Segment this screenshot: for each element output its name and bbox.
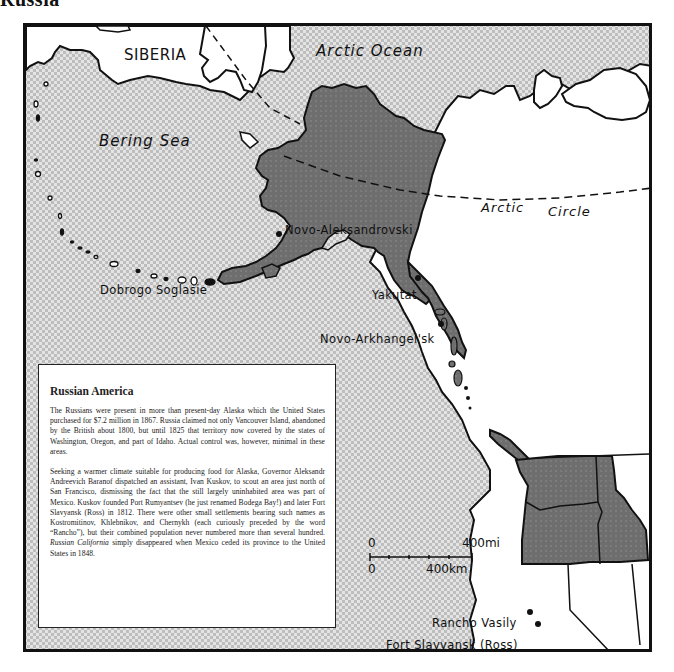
page-title-fragment: Russia bbox=[0, 0, 60, 11]
archipelago-island bbox=[466, 396, 470, 400]
info-paragraph-2: Seeking a warmer climate suitable for pr… bbox=[50, 467, 325, 559]
info-paragraph-1: The Russians were present in more than p… bbox=[50, 406, 325, 457]
label-dobrogo-soglasie: Dobrogo Soglasie bbox=[100, 283, 207, 297]
scale-km-zero: 0 bbox=[368, 562, 376, 576]
archipelago-island bbox=[451, 337, 457, 355]
settlement-dot-yakutat bbox=[415, 275, 421, 281]
label-novo-arkhangelsk: Novo-Arkhangel'sk bbox=[320, 332, 435, 346]
label-bering-sea: Bering Sea bbox=[99, 132, 191, 150]
label-siberia: SIBERIA bbox=[124, 46, 186, 64]
scale-mi-zero: 0 bbox=[368, 536, 376, 550]
label-arctic: Arctic bbox=[481, 200, 524, 215]
archipelago-island bbox=[454, 370, 462, 386]
map-frame: SIBERIA Arctic Ocean Bering Sea Arctic C… bbox=[23, 23, 652, 652]
label-circle: Circle bbox=[548, 204, 591, 219]
label-novo-aleksandrovski: Novo-Aleksandrovski bbox=[285, 223, 413, 237]
label-yakutat: Yakutat bbox=[372, 288, 417, 302]
info-paragraph-2-main: Seeking a warmer climate suitable for pr… bbox=[50, 467, 325, 537]
scale-km-max: 400km bbox=[426, 562, 468, 576]
settlement-dot-novo-aleksandrovski bbox=[276, 231, 282, 237]
scale-mi-max: 400mi bbox=[462, 536, 500, 550]
settlement-dot-fort-ross bbox=[535, 621, 541, 627]
settlement-dot-rancho-vasily bbox=[527, 609, 533, 615]
label-fort-slavyansk: Fort Slavyansk (Ross) bbox=[386, 638, 518, 652]
info-paragraph-2-italic: Russian California bbox=[50, 538, 109, 547]
archipelago-island bbox=[469, 407, 472, 410]
info-box: Russian America The Russians were presen… bbox=[38, 364, 336, 628]
label-arctic-ocean: Arctic Ocean bbox=[316, 42, 424, 60]
archipelago-island bbox=[435, 309, 445, 315]
archipelago-island bbox=[464, 386, 468, 390]
info-title: Russian America bbox=[50, 385, 325, 397]
label-rancho-vasily: Rancho Vasily bbox=[432, 616, 517, 630]
settlement-dot-novo-arkhangelsk bbox=[438, 321, 444, 327]
archipelago-island bbox=[449, 361, 455, 367]
